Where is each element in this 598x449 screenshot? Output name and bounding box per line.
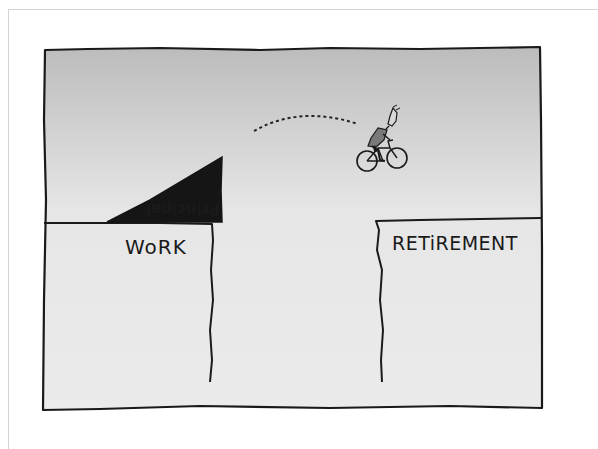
work-label: WoRK bbox=[125, 235, 187, 259]
panel-background bbox=[43, 47, 542, 410]
principal-label: Principal bbox=[146, 200, 220, 218]
retirement-label: RETiREMENT bbox=[392, 232, 518, 254]
